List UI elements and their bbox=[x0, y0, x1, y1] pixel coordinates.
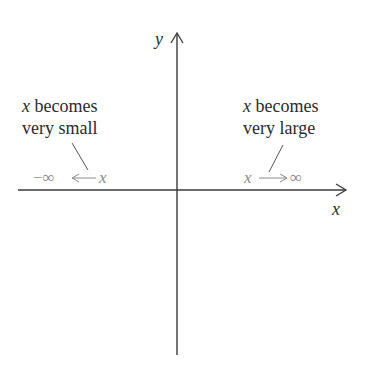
y-axis-label: y bbox=[155, 28, 163, 50]
left-annotation-becomes: becomes bbox=[30, 96, 97, 116]
right-annotation-line2: very large bbox=[243, 117, 315, 139]
right-pointer-line bbox=[269, 145, 283, 172]
x-axis-label: x bbox=[332, 198, 340, 220]
coordinate-axes bbox=[0, 0, 368, 365]
left-pointer-line bbox=[72, 143, 88, 170]
right-x-label: x bbox=[244, 167, 252, 189]
left-x-label: x bbox=[99, 167, 107, 189]
right-annotation-var: x bbox=[243, 96, 251, 116]
left-annotation-var: x bbox=[22, 96, 30, 116]
neg-infinity-label: −∞ bbox=[33, 167, 55, 189]
right-annotation-becomes: becomes bbox=[251, 96, 318, 116]
left-annotation-line1: x becomes bbox=[22, 95, 97, 117]
infinity-label: ∞ bbox=[290, 167, 302, 189]
left-annotation-line2: very small bbox=[22, 117, 97, 139]
right-annotation-line1: x becomes bbox=[243, 95, 318, 117]
